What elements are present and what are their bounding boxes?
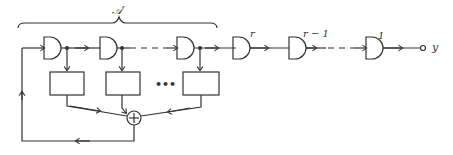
brace — [18, 17, 217, 28]
bracket-label: 𝒜′ — [112, 4, 126, 17]
wire — [141, 95, 201, 116]
delay-label-r: r — [250, 28, 256, 39]
delay-label-r-minus-1: r − 1 — [303, 28, 329, 39]
delay-element-2 — [100, 37, 117, 59]
function-box-1 — [50, 72, 84, 95]
function-box-n — [183, 72, 219, 95]
delay-label-1: 1 — [378, 30, 384, 41]
delay-element-1 — [44, 37, 61, 59]
wire — [67, 95, 127, 116]
delay-element-n — [177, 37, 194, 59]
function-box-2 — [106, 72, 140, 95]
ellipsis: ••• — [155, 78, 176, 91]
shift-register-diagram: 𝒜′ r r − 1 1 y ••• — [0, 0, 453, 155]
output-label: y — [431, 41, 439, 54]
diagram-canvas: 𝒜′ r r − 1 1 y ••• — [0, 0, 453, 155]
output-terminal — [421, 46, 426, 51]
delay-element-r-minus-1 — [289, 37, 306, 59]
